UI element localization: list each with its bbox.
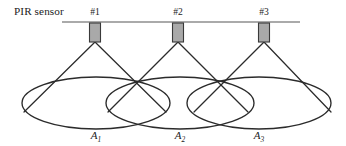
sensor-id-label-3: #3 <box>259 6 269 17</box>
figure-canvas: PIR sensor #1 #2 #3 A1 A2 A3 <box>0 0 346 146</box>
sensor-id-label-2: #2 <box>173 6 183 17</box>
pir-sensor-coverage-figure: PIR sensor #1 #2 #3 A1 A2 A3 <box>0 0 346 146</box>
area-label-a2-text: A2 <box>174 129 186 144</box>
coverage-area-group <box>22 77 331 129</box>
coverage-ellipse-a2 <box>106 77 254 129</box>
sensor-box-2 <box>173 23 184 42</box>
coverage-ellipse-a1 <box>22 77 170 129</box>
area-label-a1: A1 <box>90 129 101 144</box>
sensor-id-label-1: #1 <box>90 6 100 17</box>
sensor-box-1 <box>90 23 101 42</box>
sensor-housing-group <box>90 23 270 42</box>
area-label-a3: A3 <box>253 129 265 144</box>
coverage-ellipse-a3 <box>187 77 331 129</box>
pir-sensor-caption: PIR sensor <box>14 5 64 17</box>
sensor-box-3 <box>259 23 270 42</box>
area-label-a3-text: A3 <box>253 129 265 144</box>
area-label-a1-text: A1 <box>90 129 101 144</box>
area-label-a2: A2 <box>174 129 186 144</box>
